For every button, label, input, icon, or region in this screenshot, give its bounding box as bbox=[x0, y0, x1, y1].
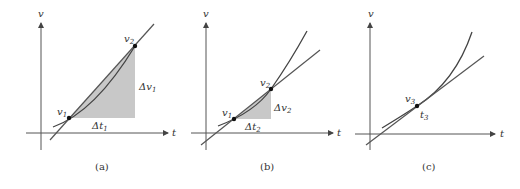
v2-label-b: v2 bbox=[260, 77, 271, 90]
caption-c: (c) bbox=[422, 161, 436, 172]
point-v3-c bbox=[415, 104, 419, 108]
panel-b: v t v1 v2 Δv2 Δt2 (b) bbox=[191, 8, 342, 172]
t-axis-label-a: t bbox=[172, 127, 177, 138]
v1-label-b: v1 bbox=[222, 107, 232, 120]
point-v1-b bbox=[232, 117, 236, 121]
panel-a: v t v1 v2 Δv1 Δt1 (a) bbox=[26, 8, 177, 172]
delta-t-label-b: Δt2 bbox=[244, 121, 261, 134]
delta-v-label-a: Δv1 bbox=[138, 81, 156, 94]
tangent-line-c bbox=[366, 56, 484, 145]
v-axis-label-a: v bbox=[38, 8, 44, 19]
velocity-time-diagrams: v t v1 v2 Δv1 Δt1 (a) v t v1 v2 Δv2 Δt2 … bbox=[0, 0, 520, 189]
v3-label-c: v3 bbox=[405, 93, 416, 106]
delta-v-label-b: Δv2 bbox=[273, 102, 292, 115]
t-axis-label-c: t bbox=[500, 128, 505, 139]
caption-a: (a) bbox=[95, 161, 109, 172]
caption-b: (b) bbox=[260, 161, 274, 172]
panel-c: v t v3 t3 (c) bbox=[355, 8, 505, 172]
v2-label-a: v2 bbox=[124, 33, 135, 46]
point-v1-a bbox=[67, 116, 71, 120]
v1-label-a: v1 bbox=[57, 106, 67, 119]
t3-label-c: t3 bbox=[420, 109, 429, 122]
t-axis-label-b: t bbox=[337, 127, 342, 138]
v-axis-label-c: v bbox=[368, 8, 374, 19]
v-axis-label-b: v bbox=[203, 8, 209, 19]
delta-t-label-a: Δt1 bbox=[91, 120, 108, 133]
